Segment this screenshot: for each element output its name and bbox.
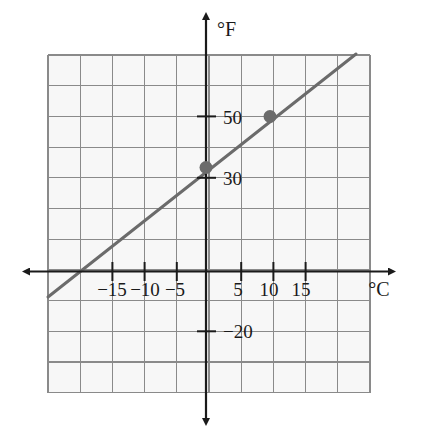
x-axis-title: °C (368, 278, 389, 300)
data-point-10-50 (264, 110, 277, 123)
x-tick-label-10: 10 (260, 279, 279, 300)
data-point-0-32 (200, 161, 213, 174)
x-tick-label--5: −5 (165, 279, 185, 300)
y-tick-label-30: 30 (223, 168, 242, 189)
chart-figure: −15 −10 −5 5 10 15 50 30 −20 °F °C (0, 0, 421, 431)
y-axis-title: °F (217, 18, 236, 40)
y-tick-label-50: 50 (223, 107, 242, 128)
x-tick-label--10: −10 (130, 279, 160, 300)
x-tick-label-5: 5 (233, 279, 243, 300)
y-tick-label--20: −20 (223, 321, 253, 342)
coordinate-plane-graph: −15 −10 −5 5 10 15 50 30 −20 °F °C (0, 0, 421, 431)
x-tick-label-15: 15 (292, 279, 311, 300)
x-tick-label--15: −15 (97, 279, 127, 300)
